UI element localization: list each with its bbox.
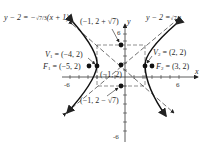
point-v1 [95, 64, 100, 69]
x-axis-label: x [195, 67, 199, 76]
y-tick-minus-6: -6 [113, 133, 119, 141]
label-top-point: (−1, 2 + √7) [80, 17, 119, 26]
label-v1: V1 = (−4, 2) [45, 50, 83, 61]
x-axis [62, 75, 198, 79]
point-f1 [87, 64, 92, 69]
point-bottom [119, 84, 124, 89]
y-axis-label: y [127, 17, 131, 26]
label-v2: V2 = (2, 2) [153, 48, 186, 59]
point-center [119, 63, 124, 68]
label-f1: F1 = (−5, 2) [43, 62, 81, 73]
label-bottom-point: (−1, 2 − √7) [80, 96, 119, 105]
point-v2 [143, 64, 148, 69]
point-f2 [150, 64, 155, 69]
x-tick-minus-6: -6 [64, 81, 70, 89]
label-center-point: (−1, 2) [100, 70, 122, 79]
hyperbola-diagram: y x 6 -6 -6 6 y − 2 = −√7/3(x + 1) y − 2… [0, 0, 207, 145]
asymptote-left-equation: y − 2 = −√7/3(x + 1) [4, 13, 69, 23]
label-f2: F2 = (3, 2) [156, 62, 189, 73]
x-tick-6: 6 [176, 81, 180, 89]
asymptote-right-equation: y − 2 =√7/3 [146, 13, 181, 23]
y-axis [123, 24, 127, 142]
point-top [119, 43, 124, 48]
y-tick-6: 6 [117, 29, 121, 37]
